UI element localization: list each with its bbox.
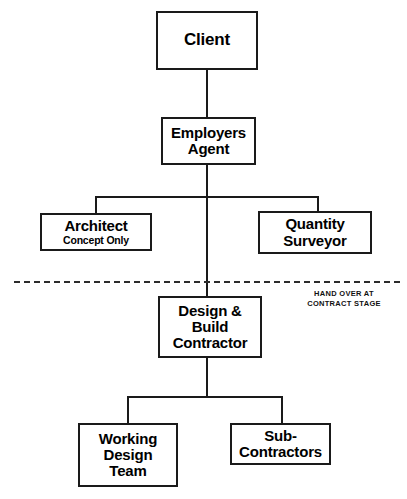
connector-client-to-employers-agent [206, 70, 208, 117]
node-employers-agent[interactable]: Employers Agent [161, 117, 256, 165]
node-client[interactable]: Client [156, 11, 258, 70]
node-architect[interactable]: Architect Concept Only [40, 213, 152, 251]
node-sub-contractors-label: Sub- Contractors [239, 428, 322, 460]
organisation-chart: HAND OVER AT CONTRACT STAGE Client Emplo… [0, 0, 407, 499]
handover-annotation: HAND OVER AT CONTRACT STAGE [288, 289, 400, 309]
connector-employers-agent-branch-bar [95, 196, 319, 198]
handover-divider-line [14, 281, 400, 283]
node-design-build-contractor[interactable]: Design & Build Contractor [158, 296, 262, 358]
connector-contractor-branch-bar [127, 396, 283, 398]
node-sub-contractors[interactable]: Sub- Contractors [230, 423, 331, 465]
connector-branch-to-quantity-surveyor [317, 196, 319, 211]
node-employers-agent-label: Employers Agent [171, 125, 246, 157]
node-working-design-team[interactable]: Working Design Team [78, 423, 178, 487]
connector-contractor-trunk [206, 358, 208, 398]
node-quantity-surveyor-label: Quantity Surveyor [283, 216, 346, 248]
node-client-label: Client [184, 31, 230, 49]
connector-branch-to-working-design-team [127, 396, 129, 423]
connector-branch-to-architect [95, 196, 97, 213]
node-design-build-contractor-label: Design & Build Contractor [173, 303, 248, 352]
node-quantity-surveyor[interactable]: Quantity Surveyor [258, 211, 372, 254]
connector-employers-agent-trunk [206, 165, 208, 296]
node-architect-subtitle: Concept Only [63, 235, 129, 246]
node-architect-label: Architect [64, 218, 127, 234]
connector-branch-to-sub-contractors [281, 396, 283, 423]
node-working-design-team-label: Working Design Team [99, 431, 157, 480]
